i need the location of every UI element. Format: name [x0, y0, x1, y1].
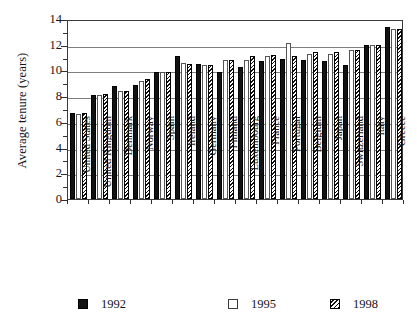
legend-label: 1995	[251, 297, 276, 312]
y-axis-tick-label: 6	[22, 116, 62, 129]
x-axis-category-label: Portugal	[292, 116, 303, 206]
x-axis-category-label: Spain	[166, 116, 177, 206]
legend-swatch-1992	[78, 299, 88, 309]
legend-label: 1998	[353, 297, 378, 312]
y-axis-tick-label: 2	[22, 167, 62, 180]
chart-legend: 199219951998	[0, 295, 417, 321]
legend-swatch-1998	[330, 299, 340, 309]
x-axis-category-label: Finland	[229, 116, 240, 206]
bar	[391, 29, 396, 199]
x-axis-category-label: Ireland	[187, 116, 198, 206]
legend-item: 1995	[228, 295, 276, 313]
x-axis-category-label: Japan	[334, 116, 345, 206]
y-axis-tick-label: 8	[22, 90, 62, 103]
legend-item: 1998	[330, 295, 378, 313]
x-axis-category-label: Denmark	[124, 116, 135, 206]
y-axis-tick-label: 12	[22, 39, 62, 52]
bar	[70, 113, 75, 199]
bar-chart-figure: Average tenure (years) 02468101214 Unite…	[0, 0, 417, 327]
x-axis-tick	[67, 200, 68, 204]
x-axis-category-label: Germany	[208, 116, 219, 206]
x-axis-category-label: Switzerland	[355, 116, 366, 206]
x-axis-category-label: France	[271, 116, 282, 206]
y-axis-tick-label: 4	[22, 142, 62, 155]
y-axis-tick-label: 14	[22, 13, 62, 26]
x-axis-category-label: Norway	[145, 116, 156, 206]
x-axis-category-label: United Kingdom	[103, 116, 114, 206]
legend-swatch-1995	[228, 299, 238, 309]
legend-label: 1992	[101, 297, 126, 312]
x-axis-category-label: Italy	[376, 116, 387, 206]
legend-item: 1992	[78, 295, 126, 313]
x-axis-category-label: Luxembourg	[250, 116, 261, 206]
x-axis-category-label: Greece	[397, 116, 408, 206]
y-axis-tick-label: 0	[22, 193, 62, 206]
x-axis-category-label: United States	[82, 116, 93, 206]
y-axis-tick-label: 10	[22, 64, 62, 77]
x-axis-category-label: Belgium	[313, 116, 324, 206]
